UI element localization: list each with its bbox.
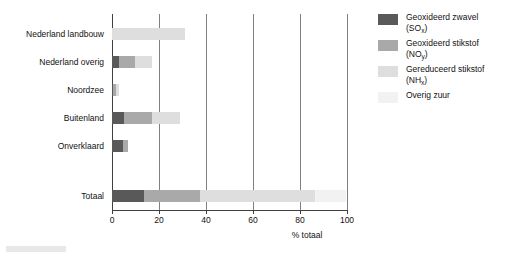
legend-item[interactable]: Geoxideerd stikstof(NOy) bbox=[378, 38, 508, 60]
bar-segment bbox=[124, 112, 152, 124]
bar-totaal bbox=[112, 190, 346, 202]
x-tick-label: 40 bbox=[186, 215, 226, 225]
x-tick-label: 20 bbox=[139, 215, 179, 225]
category-label: Nederland landbouw bbox=[0, 28, 104, 40]
x-tick-20 bbox=[159, 210, 160, 214]
category-label: Totaal bbox=[0, 190, 104, 202]
legend-label: Geoxideerd zwavel bbox=[406, 12, 508, 23]
legend: Geoxideerd zwavel(SOx)Geoxideerd stiksto… bbox=[378, 12, 508, 108]
bar-segment bbox=[135, 56, 151, 68]
gridline-80 bbox=[300, 14, 301, 210]
bar-segment bbox=[152, 112, 180, 124]
category-label-group: Nederland landbouwNederland overigNoordz… bbox=[0, 14, 108, 210]
bar-segment bbox=[119, 56, 135, 68]
gridline-60 bbox=[253, 14, 254, 210]
x-axis-line bbox=[112, 210, 347, 211]
bar-noordzee bbox=[112, 84, 119, 96]
category-label: Nederland overig bbox=[0, 56, 104, 68]
bar-segment bbox=[200, 190, 315, 202]
x-tick-0 bbox=[112, 210, 113, 214]
legend-swatch bbox=[378, 92, 398, 103]
x-tick-60 bbox=[253, 210, 254, 214]
x-tick-label: 80 bbox=[280, 215, 320, 225]
category-label: Onverklaard bbox=[0, 140, 104, 152]
legend-formula: (SOx) bbox=[406, 23, 508, 34]
x-axis-title: % totaal bbox=[252, 230, 362, 240]
bar-segment bbox=[112, 28, 185, 40]
x-tick-80 bbox=[300, 210, 301, 214]
bar-segment bbox=[112, 112, 124, 124]
legend-label: Gereduceerd stikstof bbox=[406, 64, 508, 75]
bar-segment bbox=[123, 140, 128, 152]
legend-item[interactable]: Geoxideerd zwavel(SOx) bbox=[378, 12, 508, 34]
legend-swatch bbox=[378, 40, 398, 51]
x-tick-label: 0 bbox=[92, 215, 132, 225]
legend-swatch bbox=[378, 66, 398, 77]
gridline-40 bbox=[206, 14, 207, 210]
bar-buitenland bbox=[112, 112, 180, 124]
x-tick-40 bbox=[206, 210, 207, 214]
bar-nederland-landbouw bbox=[112, 28, 185, 40]
x-tick-100 bbox=[347, 210, 348, 214]
bar-segment bbox=[112, 56, 119, 68]
bar-segment bbox=[116, 84, 119, 96]
legend-formula: (NOy) bbox=[406, 49, 508, 60]
bar-onverklaard bbox=[112, 140, 128, 152]
legend-label: Overig zuur bbox=[406, 90, 508, 101]
legend-swatch bbox=[378, 14, 398, 25]
legend-item[interactable]: Overig zuur bbox=[378, 90, 508, 104]
legend-item[interactable]: Gereduceerd stikstof(NHx) bbox=[378, 64, 508, 86]
gridline-100 bbox=[347, 14, 348, 210]
x-tick-label: 100 bbox=[327, 215, 367, 225]
legend-label: Geoxideerd stikstof bbox=[406, 38, 508, 49]
acidification-stacked-bar-chart: Nederland landbouwNederland overigNoordz… bbox=[0, 0, 510, 256]
category-label: Buitenland bbox=[0, 112, 104, 124]
bar-segment bbox=[144, 190, 200, 202]
bar-segment bbox=[315, 190, 346, 202]
footer-artifact bbox=[6, 246, 66, 252]
x-tick-label: 60 bbox=[233, 215, 273, 225]
legend-formula: (NHx) bbox=[406, 75, 508, 86]
bar-segment bbox=[112, 190, 144, 202]
bar-segment bbox=[112, 140, 123, 152]
bar-nederland-overig bbox=[112, 56, 152, 68]
category-label: Noordzee bbox=[0, 84, 104, 96]
plot-area: Nederland landbouwNederland overigNoordz… bbox=[112, 14, 347, 210]
